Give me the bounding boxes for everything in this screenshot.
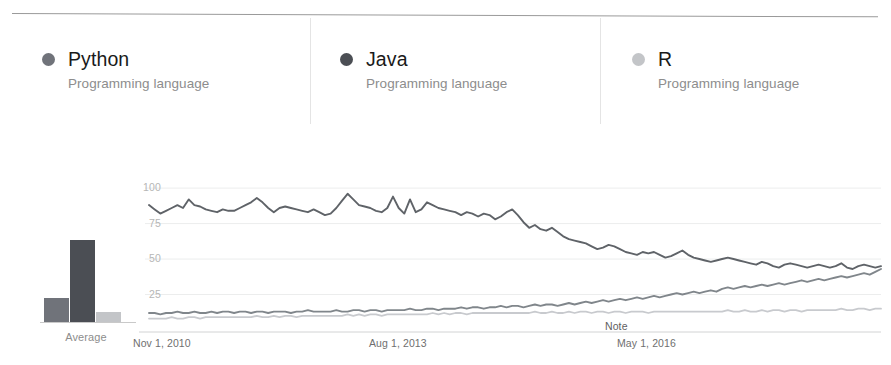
average-bar [96, 312, 121, 322]
y-axis-tick-100: 100 [139, 181, 161, 193]
legend-divider [310, 18, 311, 124]
y-axis-tick-75: 75 [139, 217, 161, 229]
y-axis-tick-50: 50 [139, 252, 161, 264]
series-dot-icon [42, 53, 55, 66]
series-dot-icon [340, 53, 353, 66]
average-baseline [40, 322, 136, 323]
legend-item-subtitle: Programming language [658, 76, 878, 91]
legend-head: Java [340, 46, 600, 72]
series-line-java [149, 194, 881, 269]
average-bar [44, 298, 69, 322]
average-axis-label: Average [40, 331, 132, 343]
trend-plot-svg[interactable] [133, 172, 885, 337]
legend-item-java[interactable]: Java Programming language [310, 16, 600, 124]
x-axis-tick-end: May 1, 2016 [617, 337, 676, 349]
y-axis-tick-25: 25 [139, 288, 161, 300]
legend-head: R [632, 46, 878, 72]
x-axis-tick-start: Nov 1, 2010 [133, 337, 191, 349]
series-line-python [149, 269, 881, 314]
note-annotation: Note [605, 320, 628, 332]
trends-comparison-panel: Python Programming language Java Program… [0, 0, 891, 365]
legend-item-subtitle: Programming language [366, 76, 600, 91]
legend-item-r[interactable]: R Programming language [600, 16, 878, 124]
series-legend: Python Programming language Java Program… [12, 16, 878, 124]
average-bars [44, 212, 122, 322]
legend-item-title: R [658, 48, 672, 70]
interest-over-time-chart: 100 75 50 25 Nov 1, 2010 Aug 1, 2013 May… [133, 172, 885, 362]
series-line-r [149, 309, 881, 319]
average-bar [70, 240, 95, 323]
legend-divider [600, 18, 601, 124]
legend-head: Python [42, 46, 310, 72]
legend-item-python[interactable]: Python Programming language [12, 16, 310, 124]
series-dot-icon [632, 53, 645, 66]
x-axis-tick-middle: Aug 1, 2013 [369, 337, 427, 349]
legend-item-subtitle: Programming language [68, 76, 310, 91]
average-bar-chart: Average [40, 190, 140, 355]
legend-item-title: Java [366, 48, 408, 70]
average-plot-area [40, 212, 140, 322]
legend-item-title: Python [68, 48, 129, 70]
